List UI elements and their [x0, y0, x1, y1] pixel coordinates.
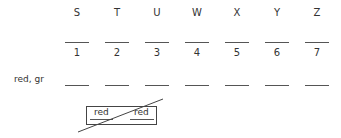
strike-line: [0, 0, 341, 138]
